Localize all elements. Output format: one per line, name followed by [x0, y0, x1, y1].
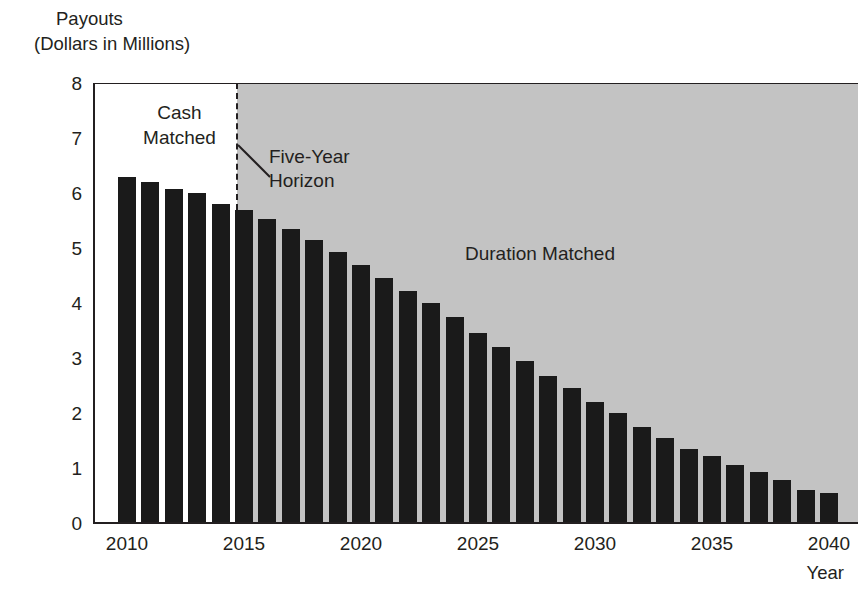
bar-2024 — [446, 317, 464, 523]
bar-2034 — [680, 449, 698, 523]
x-tick-2030: 2030 — [560, 533, 630, 555]
x-tick-2015: 2015 — [209, 533, 279, 555]
bar-2035 — [703, 456, 721, 523]
y-tick-5: 5 — [52, 239, 82, 258]
bar-2012 — [165, 189, 183, 523]
bar-2013 — [188, 193, 206, 523]
bar-2018 — [305, 240, 323, 523]
bar-2039 — [797, 490, 815, 523]
bar-2020 — [352, 265, 370, 524]
bar-2015 — [235, 210, 253, 524]
y-tick-3: 3 — [52, 349, 82, 368]
y-tick-1: 1 — [52, 459, 82, 478]
bar-2028 — [539, 376, 557, 523]
y-tick-8: 8 — [52, 74, 82, 93]
x-axis-line — [94, 522, 858, 524]
bar-2038 — [773, 480, 791, 523]
bar-2036 — [726, 465, 744, 523]
bar-2011 — [141, 182, 159, 523]
x-axis-title: Year — [807, 562, 844, 584]
bar-2017 — [282, 229, 300, 523]
bar-2029 — [563, 388, 581, 523]
y-tick-0: 0 — [52, 514, 82, 533]
bar-2019 — [329, 252, 347, 523]
bar-2033 — [656, 438, 674, 523]
bar-2016 — [258, 219, 276, 523]
bar-2014 — [212, 204, 230, 523]
x-axis-tick-labels: 2010201520202025203020352040 — [94, 533, 858, 563]
y-axis-line — [93, 83, 95, 524]
bar-2027 — [516, 361, 534, 523]
y-tick-2: 2 — [52, 404, 82, 423]
bar-2025 — [469, 333, 487, 523]
bar-2010 — [118, 177, 136, 524]
bar-series — [94, 83, 858, 523]
bar-2023 — [422, 303, 440, 523]
bar-2032 — [633, 427, 651, 523]
bar-2031 — [609, 413, 627, 523]
x-tick-2035: 2035 — [677, 533, 747, 555]
bar-2040 — [820, 493, 838, 523]
y-axis-tick-labels: 012345678 — [46, 0, 82, 594]
x-tick-2010: 2010 — [92, 533, 162, 555]
y-tick-4: 4 — [52, 294, 82, 313]
y-tick-7: 7 — [52, 129, 82, 148]
x-tick-2040: 2040 — [794, 533, 858, 555]
x-tick-2025: 2025 — [443, 533, 513, 555]
bar-2021 — [375, 278, 393, 523]
bar-2030 — [586, 402, 604, 523]
bar-2022 — [399, 291, 417, 523]
x-tick-2020: 2020 — [326, 533, 396, 555]
y-tick-6: 6 — [52, 184, 82, 203]
bar-2026 — [492, 347, 510, 523]
bar-2037 — [750, 472, 768, 523]
